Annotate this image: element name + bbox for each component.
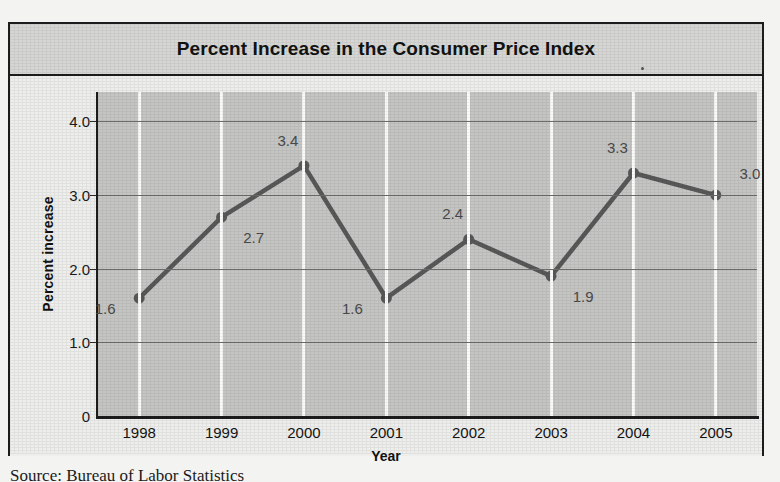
source-note: Source: Bureau of Labor Statistics [10,466,244,482]
data-point-label: 2.4 [442,205,463,222]
x-axis-line [98,416,759,419]
data-point-label: 2.7 [243,229,264,246]
x-tick-label: 2004 [598,424,668,441]
data-point-label: 1.6 [95,300,116,317]
y-tick-label: 1.0 [28,334,90,351]
vertical-gridline [632,92,635,416]
data-point-label: 3.3 [607,139,628,156]
series-polyline [139,166,716,299]
vertical-gridline [467,92,470,416]
vertical-gridline [302,92,305,416]
horizontal-gridline [98,269,757,270]
data-point-label: 1.6 [342,300,363,317]
x-tick-label: 2001 [351,424,421,441]
x-tick-label: 1998 [104,424,174,441]
x-tick-label: 2000 [269,424,339,441]
vertical-gridline [550,92,553,416]
chart-body: Percent increase 01.02.03.04.0 1.62.73.4… [10,76,762,456]
data-point-label: 3.0 [739,165,760,182]
x-axis-title: Year [10,448,762,464]
y-tick-label: 0 [28,408,90,425]
vertical-gridline [714,92,717,416]
page-title: Percent Increase in the Consumer Price I… [177,38,595,60]
vertical-gridline [385,92,388,416]
data-point-label: 1.9 [573,288,594,305]
figure-frame: Percent Increase in the Consumer Price I… [8,22,764,456]
horizontal-gridline [98,195,757,196]
series-line-cpi [98,92,757,416]
plot-area: 1.62.73.41.62.41.93.33.0 [98,92,757,416]
chart-title-band: Percent Increase in the Consumer Price I… [10,24,762,76]
data-point-label: 3.4 [278,131,299,148]
y-tick-label: 2.0 [28,260,90,277]
x-tick-label: 2005 [681,424,751,441]
y-tick-label: 3.0 [28,187,90,204]
scan-speck [641,67,644,70]
y-tick-label: 4.0 [28,113,90,130]
y-axis-ticks: 01.02.03.04.0 [10,76,90,456]
vertical-gridline [138,92,141,416]
x-tick-label: 2003 [516,424,586,441]
x-tick-label: 1999 [187,424,257,441]
vertical-gridline [220,92,223,416]
x-tick-label: 2002 [434,424,504,441]
horizontal-gridline [98,121,757,122]
horizontal-gridline [98,342,757,343]
